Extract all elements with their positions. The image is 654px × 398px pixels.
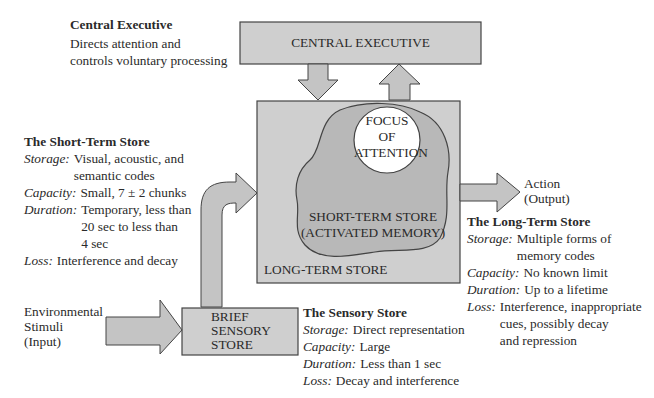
short-term-store-annotation: The Short-Term Store Storage: Visual, ac… bbox=[24, 133, 191, 269]
ss-loss-row: Loss: Decay and interference bbox=[303, 372, 465, 389]
output-line: (Output) bbox=[524, 191, 570, 206]
stm-storage-row: Storage: Visual, acoustic, andsemantic c… bbox=[24, 150, 191, 184]
ss-duration-row: Duration: Less than 1 sec bbox=[303, 355, 465, 372]
ltm-storage-value: Multiple forms ofmemory codes bbox=[517, 230, 612, 264]
ltm-storage-label: Storage: bbox=[467, 230, 513, 264]
focus-line: ATTENTION bbox=[354, 145, 420, 161]
ltm-duration-row: Duration: Up to a lifetime bbox=[467, 281, 642, 298]
ltm-duration-label: Duration: bbox=[467, 281, 520, 298]
ss-duration-value: Less than 1 sec bbox=[360, 355, 441, 372]
value-line: and repression bbox=[500, 332, 642, 349]
stm-loss-value: Interference and decay bbox=[57, 252, 178, 269]
ltm-duration-value: Up to a lifetime bbox=[524, 281, 608, 298]
up-arrow-icon bbox=[379, 64, 420, 100]
stm-label-line: (ACTIVATED MEMORY) bbox=[300, 225, 446, 241]
stm-storage-value: Visual, acoustic, andsemantic codes bbox=[74, 150, 184, 184]
long-term-store-label: LONG-TERM STORE bbox=[264, 262, 388, 278]
focus-of-attention-label: FOCUS OF ATTENTION bbox=[354, 113, 420, 161]
value-line: Interference, inappropriate bbox=[500, 298, 642, 315]
stm-loss-label: Loss: bbox=[24, 252, 53, 269]
brief-sensory-store-label: BRIEF SENSORY STORE bbox=[211, 310, 271, 352]
stm-capacity-row: Capacity: Small, 7 ± 2 chunks bbox=[24, 184, 191, 201]
central-executive-annotation: Central Executive Directs attention and … bbox=[70, 16, 227, 69]
stm-capacity-value: Small, 7 ± 2 chunks bbox=[80, 184, 186, 201]
value-line: 20 sec to less than bbox=[81, 218, 191, 235]
stm-storage-label: Storage: bbox=[24, 150, 70, 184]
output-label: Action (Output) bbox=[524, 176, 570, 206]
input-label: Environmental Stimuli (Input) bbox=[24, 304, 103, 349]
focus-line: FOCUS bbox=[354, 113, 420, 129]
stm-capacity-label: Capacity: bbox=[24, 184, 76, 201]
ss-storage-row: Storage: Direct representation bbox=[303, 321, 465, 338]
ltm-loss-value: Interference, inappropriatecues, possibl… bbox=[500, 298, 642, 349]
value-line: Temporary, less than bbox=[81, 201, 191, 218]
sensory-store-title: The Sensory Store bbox=[303, 304, 465, 321]
ss-capacity-label: Capacity: bbox=[303, 338, 355, 355]
sensory-label-line: SENSORY bbox=[211, 324, 271, 338]
short-term-store-label: SHORT-TERM STORE (ACTIVATED MEMORY) bbox=[300, 209, 446, 241]
central-executive-desc-line: controls voluntary processing bbox=[70, 52, 227, 69]
input-line: Environmental bbox=[24, 304, 103, 319]
long-term-store-title: The Long-Term Store bbox=[467, 213, 642, 230]
value-line: Visual, acoustic, and bbox=[74, 150, 184, 167]
ltm-capacity-row: Capacity: No known limit bbox=[467, 264, 642, 281]
ss-capacity-value: Large bbox=[359, 338, 390, 355]
central-executive-desc-line: Directs attention and bbox=[70, 35, 227, 52]
sensory-label-line: BRIEF bbox=[211, 310, 271, 324]
ltm-capacity-label: Capacity: bbox=[467, 264, 519, 281]
sensory-label-line: STORE bbox=[211, 338, 271, 352]
ltm-loss-label: Loss: bbox=[467, 298, 496, 349]
value-line: memory codes bbox=[517, 247, 612, 264]
ltm-storage-row: Storage: Multiple forms ofmemory codes bbox=[467, 230, 642, 264]
long-term-store-annotation: The Long-Term Store Storage: Multiple fo… bbox=[467, 213, 642, 349]
stm-label-line: SHORT-TERM STORE bbox=[300, 209, 446, 225]
ss-capacity-row: Capacity: Large bbox=[303, 338, 465, 355]
value-line: cues, possibly decay bbox=[500, 315, 642, 332]
value-line: semantic codes bbox=[74, 167, 184, 184]
output-arrow-icon bbox=[460, 173, 520, 212]
ss-loss-label: Loss: bbox=[303, 372, 332, 389]
stm-duration-row: Duration: Temporary, less than20 sec to … bbox=[24, 201, 191, 252]
stm-duration-value: Temporary, less than20 sec to less than4… bbox=[81, 201, 191, 252]
short-term-store-title: The Short-Term Store bbox=[24, 133, 191, 150]
stm-duration-label: Duration: bbox=[24, 201, 77, 252]
ss-storage-label: Storage: bbox=[303, 321, 349, 338]
input-line: (Input) bbox=[24, 334, 103, 349]
focus-line: OF bbox=[354, 129, 420, 145]
value-line: Multiple forms of bbox=[517, 230, 612, 247]
sensory-store-annotation: The Sensory Store Storage: Direct repres… bbox=[303, 304, 465, 389]
ltm-loss-row: Loss: Interference, inappropriatecues, p… bbox=[467, 298, 642, 349]
output-line: Action bbox=[524, 176, 570, 191]
ltm-capacity-value: No known limit bbox=[523, 264, 607, 281]
central-executive-title: Central Executive bbox=[70, 16, 227, 33]
input-arrow-icon bbox=[106, 300, 182, 354]
central-executive-box-label: CENTRAL EXECUTIVE bbox=[240, 35, 481, 51]
down-arrow-icon bbox=[298, 64, 338, 100]
stm-loss-row: Loss: Interference and decay bbox=[24, 252, 191, 269]
ss-duration-label: Duration: bbox=[303, 355, 356, 372]
input-line: Stimuli bbox=[24, 319, 103, 334]
ss-loss-value: Decay and interference bbox=[336, 372, 459, 389]
value-line: 4 sec bbox=[81, 235, 191, 252]
curved-arrow-icon bbox=[201, 173, 257, 307]
ss-storage-value: Direct representation bbox=[353, 321, 465, 338]
